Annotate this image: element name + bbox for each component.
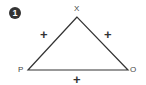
edge-sign-x-o: + xyxy=(104,28,112,41)
triangle xyxy=(28,17,128,70)
edge-sign-p-o: + xyxy=(73,73,81,85)
vertex-label-p: P xyxy=(18,66,23,74)
edge-sign-p-x: + xyxy=(40,28,48,41)
vertex-label-o: O xyxy=(130,66,136,74)
vertex-label-x: X xyxy=(74,5,79,13)
